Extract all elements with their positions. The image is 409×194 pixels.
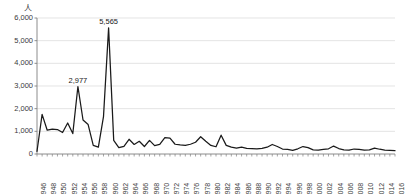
x-tick-label: 1972 — [173, 183, 180, 194]
plot-area — [37, 18, 395, 154]
y-tick-label: 2,000 — [14, 105, 33, 113]
x-tick-label: 1988 — [255, 183, 262, 194]
x-tick-label: 1992 — [275, 183, 282, 194]
y-tick-label: 5,000 — [14, 37, 33, 45]
x-tick-label: 1954 — [81, 183, 88, 194]
x-tick-label: 1952 — [71, 183, 78, 194]
x-axis-tick-labels: 1946194819501952195419561958196019621964… — [37, 157, 395, 194]
y-tick-label: 0 — [29, 150, 33, 158]
x-tick-label: 1982 — [224, 183, 231, 194]
x-tick-label: 2002 — [326, 183, 333, 194]
y-tick-label: 3,000 — [14, 82, 33, 90]
x-tick-label: 1950 — [60, 183, 67, 194]
x-tick-label: 1974 — [183, 183, 190, 194]
data-point-annotation: 5,565 — [99, 18, 118, 26]
x-tick-label: 1970 — [163, 183, 170, 194]
x-tick-label: 1980 — [214, 183, 221, 194]
x-tick-label: 1984 — [234, 183, 241, 194]
data-point-annotation: 2,977 — [69, 77, 88, 85]
x-tick-label: 1990 — [265, 183, 272, 194]
x-tick-label: 1968 — [153, 183, 160, 194]
y-axis-tick-labels: 01,0002,0003,0004,0005,0006,000 — [0, 12, 35, 160]
x-tick-label: 2016 — [398, 183, 405, 194]
line-chart: 人 01,0002,0003,0004,0005,0006,000 194619… — [0, 0, 409, 194]
y-tick-label: 1,000 — [14, 127, 33, 135]
x-tick-label: 1946 — [40, 183, 47, 194]
x-tick-label: 1986 — [245, 183, 252, 194]
x-tick-label: 1956 — [91, 183, 98, 194]
x-tick-label: 2000 — [316, 183, 323, 194]
x-tick-label: 1994 — [285, 183, 292, 194]
x-tick-label: 1948 — [50, 183, 57, 194]
series-path — [37, 28, 395, 151]
x-tick-label: 1958 — [101, 183, 108, 194]
x-tick-label: 2008 — [357, 183, 364, 194]
x-tick-label: 2012 — [378, 183, 385, 194]
x-tick-label: 1964 — [132, 183, 139, 194]
x-tick-label: 1966 — [142, 183, 149, 194]
x-tick-label: 2014 — [388, 183, 395, 194]
x-tick-label: 2004 — [337, 183, 344, 194]
data-series-line — [37, 18, 395, 154]
x-tick-label: 1978 — [204, 183, 211, 194]
x-tick-label: 1976 — [193, 183, 200, 194]
x-tick-label: 2006 — [347, 183, 354, 194]
x-tick-label: 1996 — [296, 183, 303, 194]
x-tick-label: 1998 — [306, 183, 313, 194]
y-tick-label: 6,000 — [14, 14, 33, 22]
x-tick-label: 2010 — [367, 183, 374, 194]
x-tick-label: 1960 — [112, 183, 119, 194]
x-tick-label: 1962 — [122, 183, 129, 194]
y-tick-label: 4,000 — [14, 59, 33, 67]
